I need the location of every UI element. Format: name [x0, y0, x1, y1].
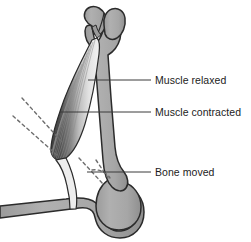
dashed-guide-upper: [22, 98, 62, 142]
diagram-page: Muscle relaxed Muscle contracted Bone mo…: [0, 0, 251, 242]
muscle-belly: [51, 38, 100, 160]
bone-condyle-right: [104, 8, 125, 39]
label-muscle-contracted: Muscle contracted: [155, 107, 241, 118]
muscle-group: [49, 25, 101, 209]
label-bone-moved: Bone moved: [155, 167, 214, 178]
anatomy-illustration: [0, 0, 251, 242]
dashed-guide-lower: [13, 116, 57, 155]
label-muscle-relaxed: Muscle relaxed: [155, 75, 226, 86]
